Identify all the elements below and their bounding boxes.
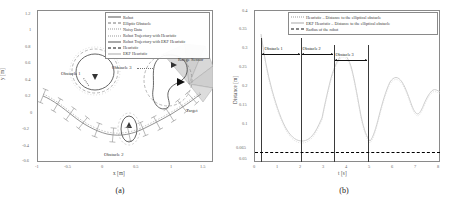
line-sample-icon xyxy=(108,15,121,20)
panel-b-x-tick: 1 xyxy=(276,164,278,169)
legend-label: Radius of the robot xyxy=(306,27,338,32)
line-sample-icon xyxy=(291,21,304,26)
leader-obstacle-3 xyxy=(137,68,153,69)
obstacle-2-shape xyxy=(118,113,140,145)
panel-b-legend: Heuristic – Distance to the elliptical o… xyxy=(288,12,438,35)
panel-a-x-tick: 1 xyxy=(170,164,172,169)
panel-a-legend: Robot Elliptic Obstacle Noisy Data Robot… xyxy=(105,12,210,59)
curve-ekf-heuristic xyxy=(261,34,440,141)
line-sample-icon xyxy=(291,15,304,20)
target-marker xyxy=(177,78,185,86)
annotation-target: Target xyxy=(186,108,198,113)
panel-a-y-tick: 0 xyxy=(30,110,32,115)
legend-label: Robot Trajectory with EKF Heuristic xyxy=(123,39,185,44)
panel-b-x-tick: 6 xyxy=(391,164,393,169)
panel-a-x-axis-label: x [m] xyxy=(113,170,125,176)
legend-item-robot-radius: Radius of the robot xyxy=(291,26,435,32)
legend-label: EKF Heuristic – Distance to the elliptic… xyxy=(306,21,390,26)
range-sensor-label: Range Sensor xyxy=(178,57,203,62)
legend-label: Robot xyxy=(123,15,133,20)
panel-b-y-tick: 0.1 xyxy=(242,121,248,126)
panel-a-y-axis-label: y [m] xyxy=(0,68,5,80)
panel-b-x-tick: 7 xyxy=(414,164,416,169)
panel-a-y-tick: -0.2 xyxy=(22,126,29,131)
panel-a-x-tick: -0.5 xyxy=(64,164,71,169)
annotation-obstacle-3: Obstacle 3 xyxy=(112,65,132,70)
obstacle-boundary-line xyxy=(301,38,302,162)
legend-label: Elliptic Obstacle xyxy=(123,21,151,26)
panel-b-y-tick: 0.065 xyxy=(236,145,246,150)
obstacle-boundary-line xyxy=(334,45,335,162)
panel-a-x-tick: 0.5 xyxy=(133,164,139,169)
panel-a-y-tick: 0.6 xyxy=(25,60,31,65)
panel-b-y-tick: 0.2 xyxy=(242,83,248,88)
panel-a-y-tick: 0.4 xyxy=(25,77,31,82)
legend-item-ekf-heuristic: EKF Heuristic xyxy=(108,51,207,57)
panel-a-y-tick: -0.6 xyxy=(22,158,29,163)
line-sample-icon xyxy=(291,27,304,32)
panel-a: y [m] x [m] 1.2 1 0.8 0.6 0.4 0.2 0 -0.2… xyxy=(0,0,228,209)
panel-a-x-tick: -1 xyxy=(35,164,39,169)
panel-b-y-tick: 0.05 xyxy=(239,156,247,161)
panel-a-y-tick: 0.8 xyxy=(25,44,31,49)
figure-container: y [m] x [m] 1.2 1 0.8 0.6 0.4 0.2 0 -0.2… xyxy=(0,0,456,209)
legend-label: Robot Trajectory with Heuristic xyxy=(123,33,176,38)
panel-b-x-axis-label: t [s] xyxy=(338,170,347,176)
line-sample-icon xyxy=(108,39,121,44)
panel-b-y-tick: 0.15 xyxy=(239,102,247,107)
trajectory-heuristic xyxy=(43,92,201,133)
line-sample-icon xyxy=(108,33,121,38)
panel-b-subcaption: (b) xyxy=(324,186,364,195)
legend-label: Heuristic xyxy=(123,45,138,50)
panel-a-subcaption: (a) xyxy=(100,186,140,195)
line-sample-icon xyxy=(108,21,121,26)
panel-a-y-tick: 1 xyxy=(29,27,31,32)
panel-b-x-tick: 4 xyxy=(345,164,347,169)
annotation-range-sensor: Range Sensor xyxy=(178,58,203,63)
line-sample-icon xyxy=(108,51,121,56)
panel-b-x-tick: 8 xyxy=(437,164,439,169)
annotation-obstacle-2: Obstacle 2 xyxy=(104,152,124,157)
panel-b-y-axis-label: Distance [m] xyxy=(232,76,238,104)
legend-label: Heuristic – Distance to the elliptical o… xyxy=(306,15,381,20)
annotation-obstacle-1: Obstacle 1 xyxy=(264,46,283,51)
line-sample-icon xyxy=(108,45,121,50)
panel-b-y-tick: 0.25 xyxy=(239,64,247,69)
annotation-obstacle-1: Obstacle 1 xyxy=(61,71,81,76)
obstacle-boundary-line xyxy=(368,45,369,162)
annotation-obstacle-3: Obstacle 3 xyxy=(335,52,354,57)
panel-a-y-tick: 0.2 xyxy=(25,93,31,98)
annotation-obstacle-2: Obstacle 2 xyxy=(302,46,321,51)
panel-b-y-tick: 0.4 xyxy=(242,8,248,13)
panel-b-x-tick: 0 xyxy=(253,164,255,169)
panel-b-x-tick: 2 xyxy=(299,164,301,169)
legend-label: Noisy Data xyxy=(123,27,142,32)
panel-a-x-tick: 0 xyxy=(101,164,103,169)
panel-b-y-tick: 0.3 xyxy=(242,45,248,50)
panel-a-y-tick: -0.4 xyxy=(22,143,29,148)
legend-label: EKF Heuristic xyxy=(123,51,147,56)
noisy-data-errorbars xyxy=(37,84,199,142)
line-sample-icon xyxy=(108,27,121,32)
panel-b-x-tick: 5 xyxy=(368,164,370,169)
panel-a-x-tick: 1.5 xyxy=(200,164,206,169)
trajectory-ekf-heuristic xyxy=(43,94,201,135)
panel-a-y-tick: 1.2 xyxy=(25,11,31,16)
panel-b: Distance [m] t [s] 0.4 0.35 0.3 0.25 0.2… xyxy=(228,0,456,209)
obstacle-boundary-line xyxy=(261,38,262,162)
panel-b-x-tick: 3 xyxy=(322,164,324,169)
panel-b-y-tick: 0.35 xyxy=(239,26,247,31)
robot-radius-line xyxy=(255,152,440,153)
